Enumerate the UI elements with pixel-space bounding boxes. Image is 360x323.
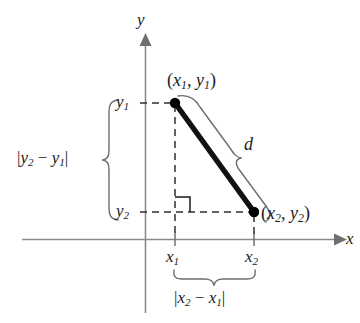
y-axis-label: y <box>137 11 145 28</box>
point-2-x: x <box>267 203 275 223</box>
horizontal-bar-close: | <box>222 288 225 307</box>
horizontal-difference-label: |x2 − x1| <box>174 289 225 308</box>
x1-tick-base: x <box>166 247 174 266</box>
brace-horizontal-left <box>174 270 214 285</box>
y1-tick-base: y <box>116 92 124 111</box>
point-2-paren-close: ) <box>304 203 310 223</box>
x1-tick-label: x1 <box>166 248 179 267</box>
horizontal-x2: x <box>177 288 185 307</box>
y1-tick-sub: 1 <box>124 100 130 112</box>
point-1-dot <box>170 98 180 108</box>
x2-tick-label: x2 <box>245 248 258 267</box>
vertical-y2: y <box>20 148 28 167</box>
y2-tick-base: y <box>116 201 124 220</box>
point-2-y: y <box>290 203 298 223</box>
point-1-comma: , <box>187 70 196 90</box>
x1-tick-sub: 1 <box>174 255 180 267</box>
y2-tick-label: y2 <box>116 202 129 221</box>
x2-tick-sub: 2 <box>253 255 259 267</box>
brace-horizontal-right <box>214 270 255 285</box>
y1-tick-label: y1 <box>116 93 129 112</box>
point-1-paren-close: ) <box>210 70 216 90</box>
x-axis-label: x <box>346 230 354 247</box>
point-2-dot <box>249 207 259 217</box>
distance-formula-figure: y x y1 y2 x1 x2 (x1, y1) (x2, y2) d |y2 … <box>0 0 360 323</box>
vertical-minus: − <box>34 148 52 167</box>
point-1-y: y <box>196 70 204 90</box>
point-2-label: (x2, y2) <box>261 204 310 225</box>
point-1-label: (x1, y1) <box>167 71 216 92</box>
brace-d <box>178 96 270 221</box>
construction-lines <box>140 103 254 236</box>
y-axis-arrowhead <box>140 33 152 46</box>
point-2-comma: , <box>281 203 290 223</box>
vertical-difference-label: |y2 − y1| <box>17 149 68 168</box>
point-1-x: x <box>173 70 181 90</box>
distance-segment <box>175 103 254 212</box>
horizontal-minus: − <box>191 288 209 307</box>
distance-label: d <box>244 135 253 153</box>
x2-tick-base: x <box>245 247 253 266</box>
vertical-bar-close: | <box>65 148 68 167</box>
y2-tick-sub: 2 <box>124 209 130 221</box>
brace-horizontal <box>174 270 255 285</box>
right-angle-mark <box>175 197 190 212</box>
